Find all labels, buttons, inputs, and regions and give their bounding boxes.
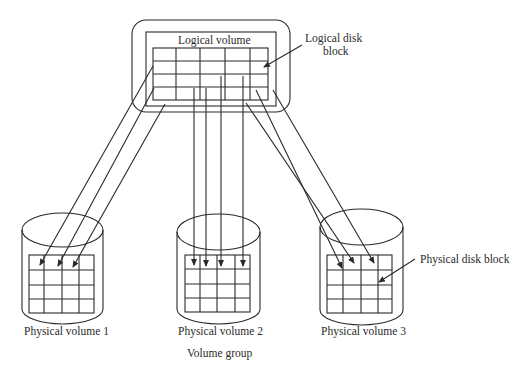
physical-volume-3-label: Physical volume 3 <box>321 325 406 338</box>
physical-volume-2-cylinder <box>177 214 260 324</box>
logical-disk-block-pointer <box>264 45 302 67</box>
physical-disk-block-label: Physical disk block <box>420 253 509 266</box>
logical-volume-grid <box>153 48 268 100</box>
mapping-arrows-pv3 <box>246 90 374 268</box>
lvm-diagram: Logical volume Logical disk block Physic… <box>0 0 522 375</box>
physical-volume-1-label: Physical volume 1 <box>24 325 109 338</box>
logical-disk-block-label-line1: Logical disk <box>305 32 362 45</box>
volume-group-label: Volume group <box>187 347 252 360</box>
mapping-arrows-pv2 <box>194 76 243 266</box>
logical-disk-block-label-line2: block <box>323 45 349 58</box>
physical-volume-2-label: Physical volume 2 <box>178 325 263 338</box>
physical-volume-1-cylinder <box>22 213 103 324</box>
physical-volume-3-cylinder <box>320 209 403 325</box>
logical-volume-title: Logical volume <box>178 34 251 47</box>
diagram-canvas <box>0 0 522 375</box>
